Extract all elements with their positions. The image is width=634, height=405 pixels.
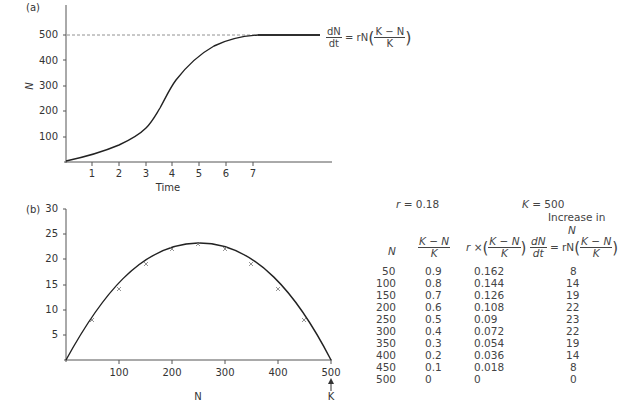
table-row: 4500.10.0188 bbox=[370, 361, 634, 373]
x-axis-label: Time bbox=[155, 182, 180, 193]
svg-text:300: 300 bbox=[215, 367, 234, 378]
logistic-curve bbox=[66, 35, 320, 161]
svg-text:2: 2 bbox=[116, 168, 122, 179]
svg-text:100: 100 bbox=[109, 367, 128, 378]
x-ticks: 1 2 3 4 5 6 7 bbox=[89, 162, 256, 179]
panel-a-label: (a) bbox=[26, 2, 40, 13]
x-ticks: 100 200 300 400 500 bbox=[109, 360, 340, 378]
k-arrow-icon bbox=[328, 378, 334, 391]
svg-text:25: 25 bbox=[45, 228, 58, 239]
equation-a: dNdt = rN(K − NK) bbox=[326, 26, 411, 49]
svg-text:500: 500 bbox=[39, 29, 58, 40]
table-row: 2500.50.0923 bbox=[370, 313, 634, 325]
increase-label-n: N bbox=[568, 224, 576, 236]
svg-text:5: 5 bbox=[52, 329, 58, 340]
y-axis-label: N bbox=[24, 82, 35, 90]
svg-text:400: 400 bbox=[268, 367, 287, 378]
svg-text:3: 3 bbox=[143, 168, 149, 179]
svg-text:400: 400 bbox=[39, 55, 58, 66]
col-header-r: r ×(K − NK) bbox=[466, 236, 526, 259]
chart-b: (b) 5 10 15 20 25 30 100 200 300 400 500… bbox=[0, 195, 370, 405]
svg-text:300: 300 bbox=[39, 80, 58, 91]
r-param: r r = 0.18= 0.18 bbox=[396, 198, 439, 210]
table-row: 3000.40.07222 bbox=[370, 325, 634, 337]
svg-text:500: 500 bbox=[321, 367, 340, 378]
svg-text:4: 4 bbox=[169, 168, 175, 179]
col-header-n: N bbox=[388, 245, 396, 257]
increase-label: Increase in bbox=[548, 211, 605, 223]
k-param: K = 500K = 500 bbox=[522, 198, 564, 210]
svg-text:20: 20 bbox=[45, 253, 58, 264]
table-row: 1000.80.14414 bbox=[370, 277, 634, 289]
table-row: 2000.60.10822 bbox=[370, 301, 634, 313]
svg-text:6: 6 bbox=[223, 168, 229, 179]
data-markers bbox=[90, 242, 306, 322]
table-row: 500.90.1628 bbox=[370, 265, 634, 277]
table-row: 3500.30.05419 bbox=[370, 337, 634, 349]
svg-text:5: 5 bbox=[196, 168, 202, 179]
growth-rate-curve bbox=[66, 243, 331, 360]
table-row: 1500.70.12619 bbox=[370, 289, 634, 301]
panel-b-label: (b) bbox=[26, 204, 40, 215]
k-marker-label: K bbox=[328, 391, 335, 402]
x-axis-label: N bbox=[194, 391, 201, 402]
table-row: 4000.20.03614 bbox=[370, 349, 634, 361]
svg-text:200: 200 bbox=[39, 105, 58, 116]
svg-text:30: 30 bbox=[45, 203, 58, 214]
svg-text:15: 15 bbox=[45, 279, 58, 290]
growth-table: r r = 0.18= 0.18 K = 500K = 500 Increase… bbox=[370, 195, 634, 405]
svg-text:1: 1 bbox=[89, 168, 95, 179]
svg-text:200: 200 bbox=[162, 367, 181, 378]
col-header-dndt: dNdt = rN(K − NK) bbox=[530, 236, 618, 259]
chart-a: (a) 100 200 300 400 500 1 2 3 4 5 6 7 Ti… bbox=[0, 0, 370, 195]
table-row: 500000 bbox=[370, 373, 634, 385]
y-ticks: 100 200 300 400 500 bbox=[39, 29, 66, 142]
col-header-frac: K − NK bbox=[418, 236, 450, 259]
svg-text:7: 7 bbox=[250, 168, 256, 179]
svg-text:100: 100 bbox=[39, 131, 58, 142]
svg-text:10: 10 bbox=[45, 304, 58, 315]
y-ticks: 5 10 15 20 25 30 bbox=[45, 203, 66, 340]
